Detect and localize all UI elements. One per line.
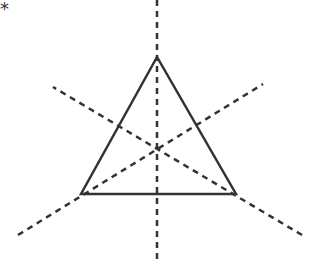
equilateral-triangle <box>81 57 236 194</box>
symmetry-axis-right <box>53 87 302 235</box>
symmetry-diagram <box>0 0 313 262</box>
symmetry-axis-left <box>18 84 263 235</box>
